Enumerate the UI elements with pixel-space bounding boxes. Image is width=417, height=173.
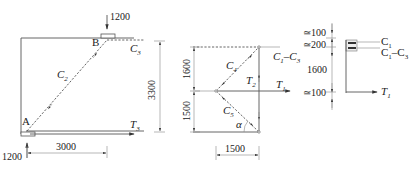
member-t2-label: T2 (246, 74, 256, 89)
c1-bar (348, 42, 356, 44)
node-a-label: A (22, 115, 30, 127)
section-block (346, 40, 357, 51)
member-c4-label: C4 (226, 59, 237, 74)
member-c3-label: C3 (130, 42, 141, 57)
dim-label-2: ≃200 (303, 39, 326, 50)
strut-c4-arrow (223, 81, 226, 84)
right-figure: ≃100 ≃200 1600 ≃100 C1 C1–C3 T1 (303, 23, 409, 110)
dim-width-label: 3000 (56, 141, 76, 152)
left-figure: 1200 1200 A B C2 C3 T3 3300 3000 (2, 11, 165, 162)
c1c3-bar (348, 47, 356, 49)
bottom-load-label: 1200 (2, 151, 22, 162)
node-b-label: B (92, 36, 99, 48)
dim-label-1: ≃100 (303, 27, 326, 38)
frame-outline (21, 38, 134, 134)
label-c1c3: C1–C3 (381, 46, 409, 61)
label-t1: T1 (381, 85, 391, 100)
member-c5-label: C5 (223, 104, 234, 119)
node (215, 90, 217, 92)
dim-height-label: 3300 (146, 80, 157, 100)
strut-and-tie-diagram: 1200 1200 A B C2 C3 T3 3300 3000 (0, 0, 417, 173)
strut-c2-line (27, 40, 107, 131)
middle-figure: α C4 C5 T2 T1 C1–C3 1600 1500 1500 (181, 46, 301, 160)
angle-arc (244, 121, 248, 132)
dim-upper-label: 1600 (181, 59, 192, 79)
dim-width-label: 1500 (225, 143, 245, 154)
dim-label-4: ≃100 (303, 87, 326, 98)
node (258, 46, 260, 48)
dim-label-3: 1600 (307, 64, 327, 75)
member-c2-label: C2 (57, 68, 68, 83)
angle-alpha-label: α (236, 118, 242, 130)
dim-lower-label: 1500 (181, 101, 192, 121)
member-c1c3-label: C1–C3 (273, 50, 301, 65)
top-load-label: 1200 (110, 11, 130, 22)
node (258, 131, 260, 133)
top-bearing-plate (101, 34, 115, 38)
